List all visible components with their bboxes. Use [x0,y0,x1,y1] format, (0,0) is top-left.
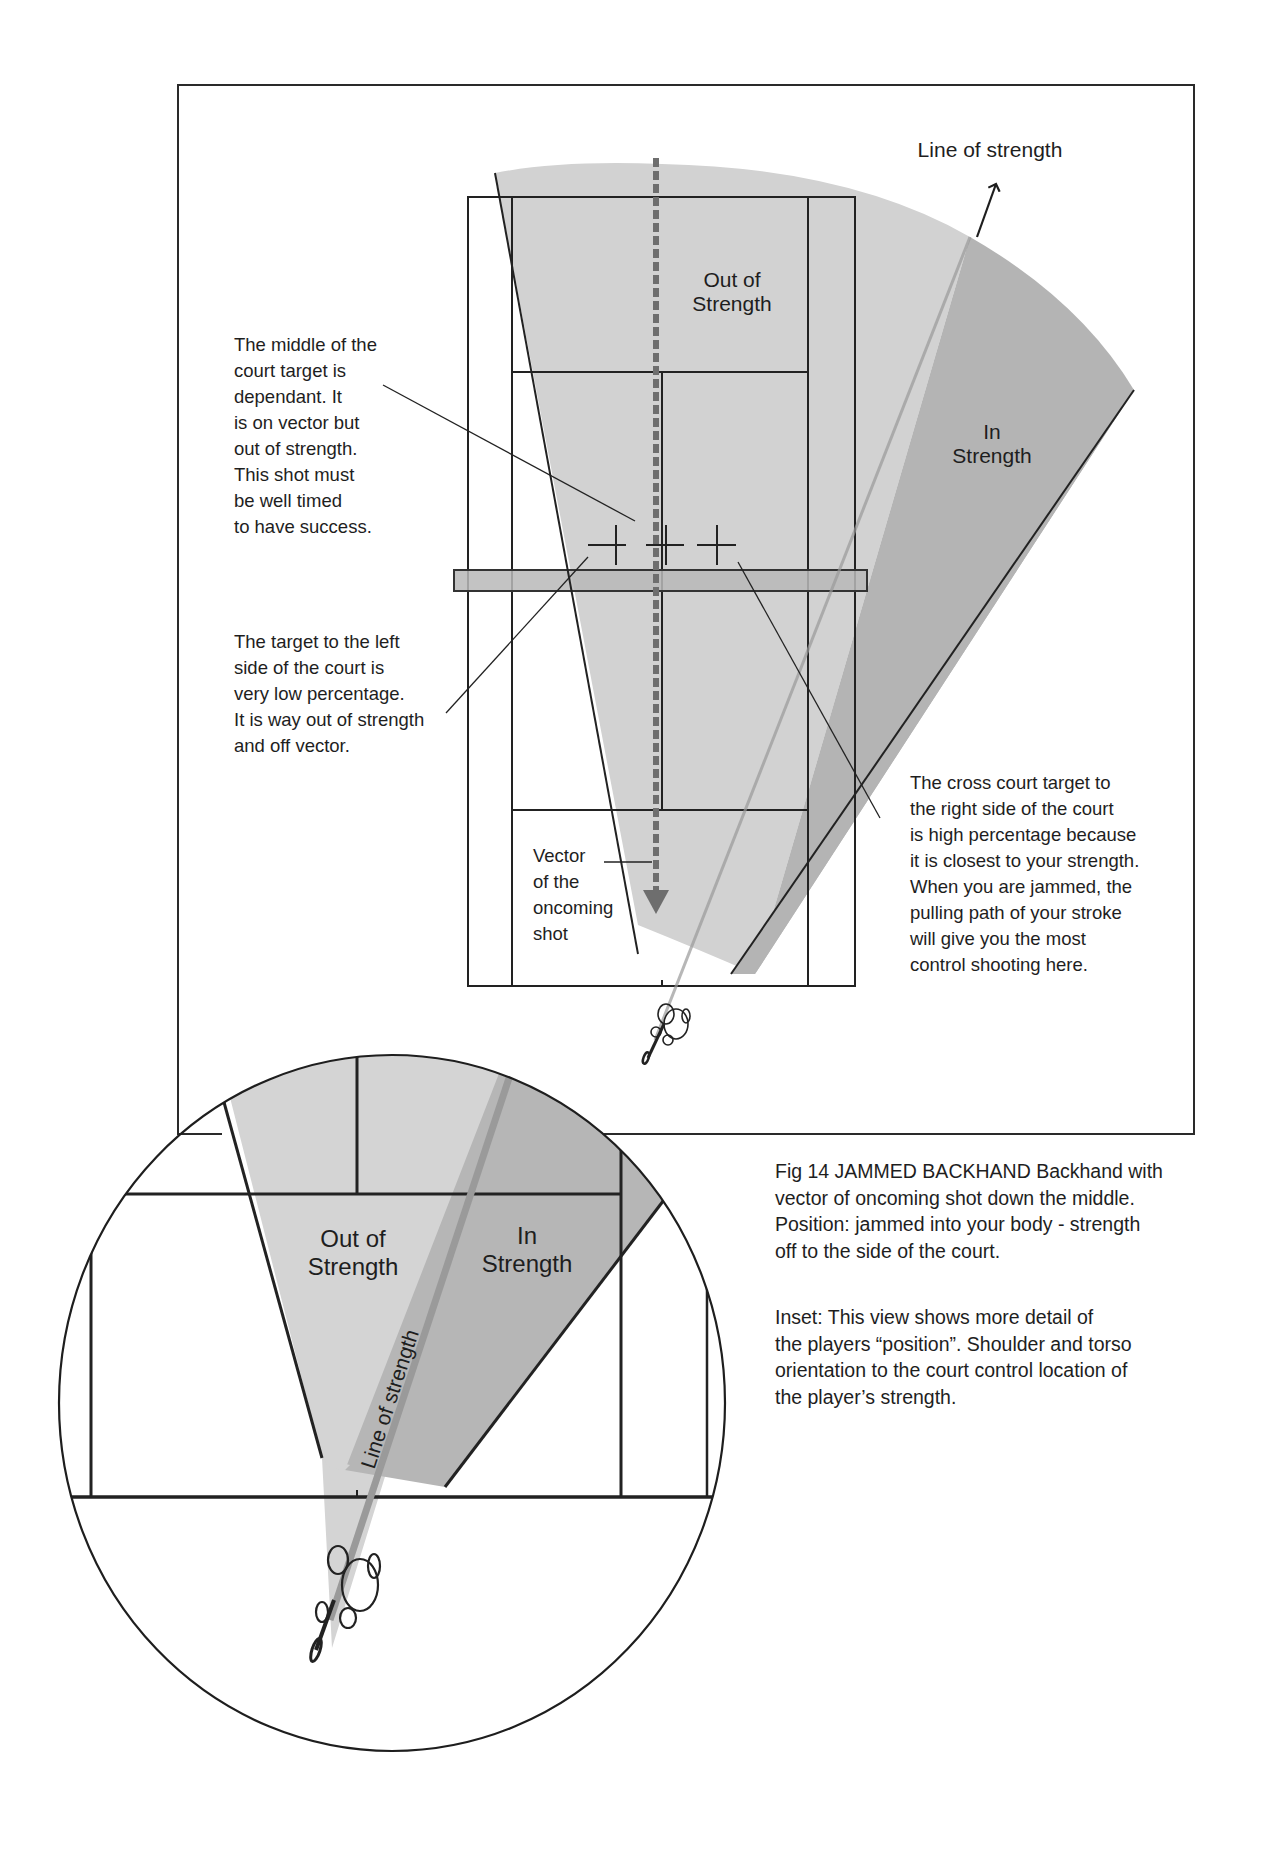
label-line-of-strength: Line of strength [900,138,1080,162]
label-vector: Vector of the oncoming shot [533,843,643,947]
label-in-strength: In Strength [922,420,1062,468]
annotation-left-target: The target to the left side of the court… [234,629,474,759]
figure-caption: Fig 14 JAMMED BACKHAND Backhand with vec… [775,1158,1215,1264]
annotation-middle-target: The middle of the court target is depend… [234,332,454,540]
inset-label-out-of-strength: Out of Strength [278,1225,428,1281]
inset-caption: Inset: This view shows more detail of th… [775,1304,1215,1410]
label-out-of-strength: Out of Strength [662,268,802,316]
net [454,570,867,591]
inset-label-in-strength: In Strength [452,1222,602,1278]
annotation-cross-court-target: The cross court target to the right side… [910,770,1200,978]
